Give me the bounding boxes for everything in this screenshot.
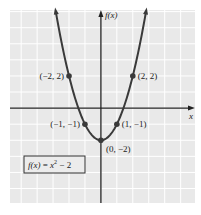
point-label: (−1, −1) <box>50 119 80 129</box>
parabola-chart: xf(x) (−2, 2)(2, 2)(−1, −1)(1, −1)(0, −2… <box>0 0 201 215</box>
function-rest: − 2 <box>57 160 71 170</box>
y-axis-label: f(x) <box>105 10 118 20</box>
function-label-box: f(x) = x2 − 2 <box>24 156 85 173</box>
grid-background <box>10 10 195 203</box>
point-label: (1, −1) <box>122 119 147 129</box>
x-axis-label: x <box>188 111 193 121</box>
data-point <box>66 73 72 79</box>
point-label: (−2, 2) <box>39 71 64 81</box>
function-label: f(x) = x2 − 2 <box>28 159 71 170</box>
grid <box>10 10 195 203</box>
data-point <box>82 121 88 127</box>
point-label: (2, 2) <box>138 71 158 81</box>
data-point <box>114 121 120 127</box>
point-label: (0, −2) <box>106 144 131 154</box>
data-point <box>130 73 136 79</box>
data-point <box>98 137 104 143</box>
function-name: f(x) <box>28 160 41 170</box>
function-equals: = <box>41 160 51 170</box>
